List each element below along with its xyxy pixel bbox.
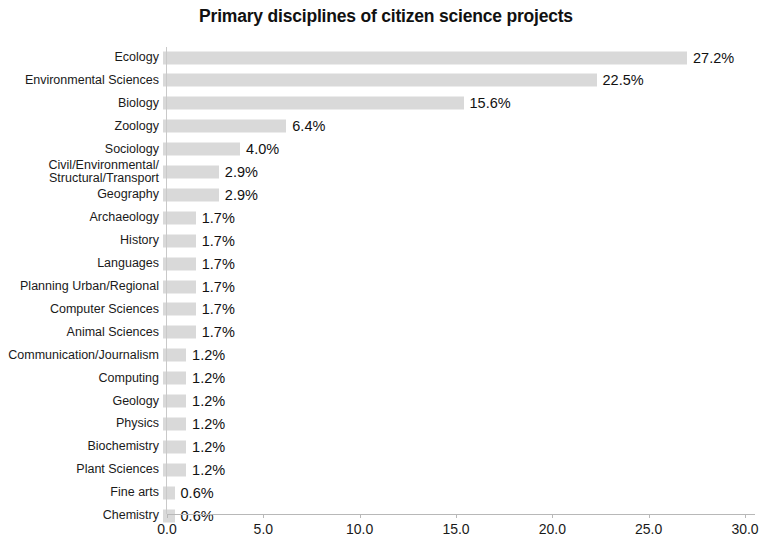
bar-track: 1.2% <box>163 413 772 434</box>
bar-row: Languages1.7% <box>0 253 772 274</box>
bar <box>163 257 196 270</box>
bar <box>163 51 687 64</box>
category-label: Geography <box>0 188 163 201</box>
bar-value-label: 22.5% <box>603 73 644 88</box>
category-label: Communication/Journalism <box>0 349 163 362</box>
bar-value-label: 1.7% <box>202 302 235 317</box>
bar-track: 1.2% <box>163 391 772 412</box>
x-axis-tick-mark <box>360 514 361 518</box>
bar-row: Computing1.2% <box>0 368 772 389</box>
bar-track: 1.7% <box>163 230 772 251</box>
bar-track: 1.2% <box>163 345 772 366</box>
category-label: Ecology <box>0 51 163 64</box>
x-axis-tick-mark <box>167 514 168 518</box>
bar <box>163 188 219 201</box>
x-axis-tick-mark <box>745 514 746 518</box>
x-axis-tick-label: 25.0 <box>635 521 662 537</box>
x-axis-tick-label: 20.0 <box>539 521 566 537</box>
bar <box>163 211 196 224</box>
bar-row: Plant Sciences1.2% <box>0 459 772 480</box>
bar-row: Archaeology1.7% <box>0 207 772 228</box>
category-label: Chemistry <box>0 509 163 522</box>
bar <box>163 280 196 293</box>
bar-row: Zoology6.4% <box>0 116 772 137</box>
bar-row: Biochemistry1.2% <box>0 436 772 457</box>
bar-row: Biology15.6% <box>0 93 772 114</box>
bar-track: 0.6% <box>163 482 772 503</box>
bar-value-label: 2.9% <box>225 187 258 202</box>
bar-row: Geography2.9% <box>0 184 772 205</box>
bar-track: 1.2% <box>163 436 772 457</box>
bar <box>163 74 597 87</box>
bar-track: 15.6% <box>163 93 772 114</box>
bar-track: 6.4% <box>163 116 772 137</box>
bar-value-label: 1.7% <box>202 256 235 271</box>
bar-value-label: 1.7% <box>202 279 235 294</box>
bar-value-label: 1.2% <box>192 348 225 363</box>
category-label: Computer Sciences <box>0 303 163 316</box>
bar-track: 1.7% <box>163 322 772 343</box>
bar-track: 2.9% <box>163 184 772 205</box>
bar-value-label: 1.7% <box>202 233 235 248</box>
bar-value-label: 1.2% <box>192 394 225 409</box>
bar-row: Environmental Sciences22.5% <box>0 70 772 91</box>
bar <box>163 97 464 110</box>
category-label: Languages <box>0 257 163 270</box>
category-label: Plant Sciences <box>0 463 163 476</box>
category-label: Physics <box>0 417 163 430</box>
bar <box>163 120 286 133</box>
category-label: Archaeology <box>0 211 163 224</box>
bar-value-label: 1.7% <box>202 325 235 340</box>
bar-row: Ecology27.2% <box>0 47 772 68</box>
bar-track: 1.7% <box>163 253 772 274</box>
bar-track: 1.7% <box>163 299 772 320</box>
x-axis-tick-mark <box>552 514 553 518</box>
bar-track: 1.2% <box>163 368 772 389</box>
bar-track: 2.9% <box>163 162 772 183</box>
category-label: Animal Sciences <box>0 326 163 339</box>
x-axis-tick-label: 0.0 <box>157 521 176 537</box>
y-axis-spine <box>166 47 167 514</box>
x-axis-tick-mark <box>649 514 650 518</box>
bar <box>163 234 196 247</box>
bar-row: History1.7% <box>0 230 772 251</box>
bar-value-label: 4.0% <box>246 142 279 157</box>
bar-value-label: 1.2% <box>192 439 225 454</box>
bar-value-label: 2.9% <box>225 165 258 180</box>
category-label: Fine arts <box>0 486 163 499</box>
category-label: Zoology <box>0 120 163 133</box>
bar <box>163 143 240 156</box>
bar-row: Computer Sciences1.7% <box>0 299 772 320</box>
category-label: Biology <box>0 97 163 110</box>
bar-value-label: 27.2% <box>693 50 734 65</box>
bar-row: Geology1.2% <box>0 391 772 412</box>
x-axis-tick-label: 30.0 <box>731 521 758 537</box>
x-axis-tick-label: 10.0 <box>346 521 373 537</box>
bar-value-label: 0.6% <box>181 485 214 500</box>
x-axis-tick-mark <box>263 514 264 518</box>
x-axis-tick-mark <box>456 514 457 518</box>
bar-row: Animal Sciences1.7% <box>0 322 772 343</box>
bar-value-label: 1.2% <box>192 371 225 386</box>
bar-row: Communication/Journalism1.2% <box>0 345 772 366</box>
chart-title: Primary disciplines of citizen science p… <box>0 6 772 27</box>
category-label: Biochemistry <box>0 440 163 453</box>
bar-value-label: 0.6% <box>181 508 214 523</box>
bar <box>163 486 175 499</box>
bar-track: 1.7% <box>163 207 772 228</box>
bar-row: Civil/Environmental/ Structural/Transpor… <box>0 162 772 183</box>
bar <box>163 166 219 179</box>
x-axis-tick-label: 5.0 <box>254 521 273 537</box>
category-label: Civil/Environmental/ Structural/Transpor… <box>0 159 163 185</box>
bar-value-label: 1.2% <box>192 416 225 431</box>
bar-track: 27.2% <box>163 47 772 68</box>
bar-chart: Primary disciplines of citizen science p… <box>0 0 772 546</box>
bar-row: Planning Urban/Regional1.7% <box>0 276 772 297</box>
plot-area: Ecology27.2%Environmental Sciences22.5%B… <box>0 44 772 516</box>
bar-value-label: 15.6% <box>470 96 511 111</box>
bar-row: Sociology4.0% <box>0 139 772 160</box>
x-axis-tick-label: 15.0 <box>442 521 469 537</box>
bar-track: 1.7% <box>163 276 772 297</box>
bar-row: Physics1.2% <box>0 413 772 434</box>
x-axis-line <box>167 514 755 515</box>
